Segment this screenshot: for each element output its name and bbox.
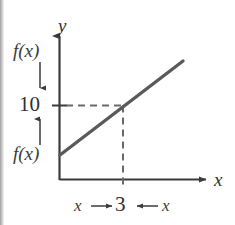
bottom-left-variable: x	[74, 197, 82, 214]
x-tick-value-3: 3	[115, 194, 126, 215]
y-tick-value-10: 10	[19, 94, 40, 115]
figure-container: y x f(x) 10 f(x) x 3 x	[0, 0, 235, 225]
bottom-right-variable: x	[162, 197, 170, 214]
y-axis-label: y	[58, 16, 66, 35]
x-axis-label: x	[214, 170, 222, 189]
fx-upper-label: f(x)	[13, 41, 39, 60]
function-line	[60, 61, 183, 155]
fx-lower-label: f(x)	[13, 144, 39, 163]
